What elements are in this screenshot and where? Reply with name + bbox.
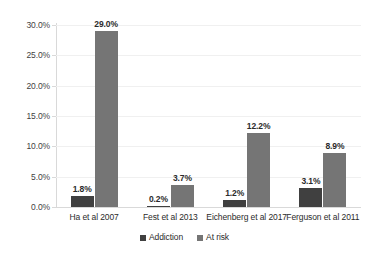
y-axis-label-wrap: 10.0% [0,142,50,151]
bar-value-label: 3.7% [162,174,203,183]
bar-value-label: 12.2% [238,122,279,131]
bar-at-risk[interactable] [323,153,346,207]
bar-addiction[interactable] [71,196,94,207]
y-axis-label-wrap: 15.0% [0,112,50,121]
plot-area: 1.8%29.0%0.2%3.7%1.2%12.2%3.1%8.9% [56,25,361,207]
y-axis-label: 10.0% [6,142,50,151]
bar-chart: 0.0%5.0%10.0%15.0%20.0%25.0%30.0% 1.8%29… [0,0,369,256]
y-axis-label: 0.0% [6,203,50,212]
y-axis-label: 15.0% [6,112,50,121]
y-axis-label: 25.0% [6,51,50,60]
chart-legend: AddictionAt risk [0,233,369,242]
bar-value-label: 8.9% [314,142,355,151]
x-axis-category-label: Ferguson et al 2011 [263,212,369,222]
bar-at-risk[interactable] [95,31,118,207]
y-axis-label-wrap: 0.0% [0,203,50,212]
bar-at-risk[interactable] [171,185,194,207]
bar-group: 0.2%3.7% [132,25,208,207]
legend-swatch-icon [140,235,146,241]
y-axis-label-wrap: 5.0% [0,173,50,182]
y-axis-label-wrap: 20.0% [0,82,50,91]
legend-item[interactable]: Addiction [140,233,183,242]
bar-addiction[interactable] [147,206,170,207]
bar-at-risk[interactable] [247,133,270,207]
bar-group: 3.1%8.9% [285,25,361,207]
y-axis-label-wrap: 30.0% [0,21,50,30]
bar-group: 1.2%12.2% [209,25,285,207]
y-axis-label: 20.0% [6,82,50,91]
y-axis-label: 30.0% [6,21,50,30]
y-axis-label-wrap: 25.0% [0,51,50,60]
bar-group: 1.8%29.0% [56,25,132,207]
bar-addiction[interactable] [299,188,322,207]
legend-label: Addiction [149,233,183,242]
legend-label: At risk [206,233,229,242]
bar-addiction[interactable] [223,200,246,207]
gridline [56,207,361,208]
bar-value-label: 29.0% [86,20,127,29]
y-axis-label: 5.0% [6,173,50,182]
legend-item[interactable]: At risk [197,233,229,242]
legend-swatch-icon [197,235,203,241]
